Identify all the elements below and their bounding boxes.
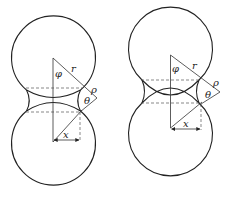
left-panel: φ r ρ θ x [12,16,98,185]
right-label-x: x [183,118,189,129]
right-neck-left [142,80,145,103]
sintering-neck-diagram: φ r ρ θ x φ r ρ θ x [0,0,228,198]
left-label-x: x [63,129,69,140]
left-label-phi: φ [55,68,62,79]
right-label-phi: φ [172,63,179,74]
left-contact-arcs [27,90,81,111]
left-bottom-sphere [12,111,96,185]
right-panel: φ r ρ θ x [129,7,221,176]
left-top-sphere [12,16,96,90]
right-label-rho: ρ [212,77,219,88]
left-label-r: r [71,63,77,74]
left-label-rho: ρ [90,84,97,95]
left-neck-left [27,90,30,111]
right-neck-right [197,80,200,103]
right-label-r: r [192,60,198,71]
right-label-theta: θ [205,89,211,100]
left-neck-right [78,90,81,111]
left-label-theta: θ [84,95,90,106]
